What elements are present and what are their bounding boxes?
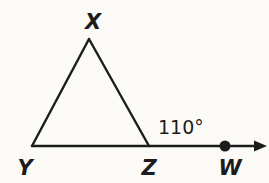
angle-110-label: 110° xyxy=(158,116,204,138)
point-w-dot xyxy=(220,141,231,152)
label-y: Y xyxy=(17,156,34,180)
label-w: W xyxy=(218,156,242,180)
triangle-diagram: X Y Z W 110° xyxy=(0,0,269,183)
label-x: X xyxy=(83,10,103,34)
label-z: Z xyxy=(140,156,157,180)
geometry-figure: X Y Z W 110° xyxy=(0,0,269,183)
